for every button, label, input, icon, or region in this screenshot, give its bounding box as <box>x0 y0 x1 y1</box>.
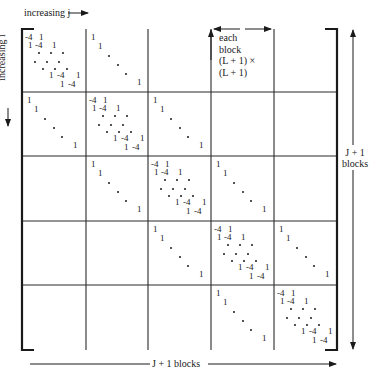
offdiag-entry: 1 <box>301 327 306 336</box>
ellipsis-dot <box>114 115 116 117</box>
ellipsis-dot <box>170 247 172 249</box>
ellipsis-dot <box>130 131 132 133</box>
diagonal-entry: -4 <box>161 168 169 177</box>
identity-entry: 1 <box>137 205 142 214</box>
ellipsis-dot <box>50 52 52 54</box>
identity-entry: 1 <box>199 141 204 150</box>
identity-entry: 1 <box>286 234 291 243</box>
offdiag-entry: 1 <box>280 297 285 306</box>
identity-entry: 1 <box>153 225 158 234</box>
ellipsis-dot <box>102 115 104 117</box>
ellipsis-dot <box>294 324 296 326</box>
identity-entry: 1 <box>73 141 78 150</box>
ellipsis-dot <box>38 52 40 54</box>
diagonal-entry: -4 <box>68 80 76 89</box>
offdiag-entry: 1 <box>76 71 81 80</box>
offdiag-entry: 1 <box>92 104 97 113</box>
ellipsis-dot <box>231 260 233 262</box>
ellipsis-dot <box>255 260 257 262</box>
diagonal-entry: -4 <box>99 104 107 113</box>
identity-entry: 1 <box>98 42 103 51</box>
diagonal-entry: -4 <box>194 207 202 216</box>
ellipsis-dot <box>306 324 308 326</box>
ellipsis-dot <box>250 200 252 202</box>
ellipsis-dot <box>118 131 120 133</box>
diagonal-entry: -4 <box>224 233 232 242</box>
ellipsis-dot <box>160 188 162 190</box>
ellipsis-dot <box>242 320 244 322</box>
identity-entry: 1 <box>262 205 267 214</box>
ellipsis-dot <box>242 191 244 193</box>
ellipsis-dot <box>187 136 189 138</box>
matrix-entries: -411-411-411-4111111-411-411-411-4111111… <box>0 0 381 378</box>
ellipsis-dot <box>108 55 110 57</box>
ellipsis-dot <box>188 179 190 181</box>
ellipsis-dot <box>98 124 100 126</box>
ellipsis-dot <box>108 182 110 184</box>
ellipsis-dot <box>251 244 253 246</box>
ellipsis-dot <box>233 182 235 184</box>
offdiag-entry: 1 <box>265 263 270 272</box>
ellipsis-dot <box>46 61 48 63</box>
ellipsis-dot <box>168 195 170 197</box>
offdiag-entry: 1 <box>328 327 333 336</box>
ellipsis-dot <box>296 247 298 249</box>
identity-entry: 1 <box>216 160 221 169</box>
ellipsis-dot <box>61 136 63 138</box>
identity-entry: 1 <box>91 33 96 42</box>
identity-entry: 1 <box>27 96 32 105</box>
offdiag-entry: 1 <box>202 198 207 207</box>
ellipsis-dot <box>126 115 128 117</box>
identity-entry: 1 <box>223 169 228 178</box>
ellipsis-dot <box>318 324 320 326</box>
identity-entry: 1 <box>262 334 267 343</box>
ellipsis-dot <box>239 244 241 246</box>
offdiag-entry: 1 <box>241 233 246 242</box>
identity-entry: 1 <box>279 225 284 234</box>
offdiag-entry: 1 <box>175 198 180 207</box>
ellipsis-dot <box>247 253 249 255</box>
identity-entry: 1 <box>98 169 103 178</box>
ellipsis-dot <box>66 68 68 70</box>
ellipsis-dot <box>117 64 119 66</box>
identity-entry: 1 <box>137 78 142 87</box>
ellipsis-dot <box>117 191 119 193</box>
identity-entry: 1 <box>160 234 165 243</box>
ellipsis-dot <box>53 127 55 129</box>
diagonal-entry: -4 <box>287 297 295 306</box>
ellipsis-dot <box>125 73 127 75</box>
diagonal-entry: -4 <box>132 143 140 152</box>
offdiag-entry: 1 <box>249 272 254 281</box>
ellipsis-dot <box>179 127 181 129</box>
identity-entry: 1 <box>325 270 330 279</box>
ellipsis-dot <box>164 179 166 181</box>
ellipsis-dot <box>314 308 316 310</box>
offdiag-entry: 1 <box>113 134 118 143</box>
diagonal-entry: -4 <box>35 41 43 50</box>
offdiag-entry: 1 <box>312 336 317 345</box>
ellipsis-dot <box>176 179 178 181</box>
ellipsis-dot <box>187 265 189 267</box>
ellipsis-dot <box>235 253 237 255</box>
figure-caption-cutoff <box>26 369 28 378</box>
ellipsis-dot <box>62 52 64 54</box>
offdiag-entry: 1 <box>154 168 159 177</box>
offdiag-entry: 1 <box>28 41 33 50</box>
ellipsis-dot <box>305 256 307 258</box>
ellipsis-dot <box>302 308 304 310</box>
identity-entry: 1 <box>160 105 165 114</box>
ellipsis-dot <box>44 118 46 120</box>
ellipsis-dot <box>286 317 288 319</box>
offdiag-entry: 1 <box>186 207 191 216</box>
ellipsis-dot <box>184 188 186 190</box>
identity-entry: 1 <box>34 105 39 114</box>
offdiag-entry: 1 <box>217 233 222 242</box>
ellipsis-dot <box>223 253 225 255</box>
ellipsis-dot <box>233 311 235 313</box>
ellipsis-dot <box>42 68 44 70</box>
ellipsis-dot <box>298 317 300 319</box>
ellipsis-dot <box>110 124 112 126</box>
offdiag-entry: 1 <box>60 80 65 89</box>
ellipsis-dot <box>227 244 229 246</box>
diagonal-entry: -4 <box>257 272 265 281</box>
